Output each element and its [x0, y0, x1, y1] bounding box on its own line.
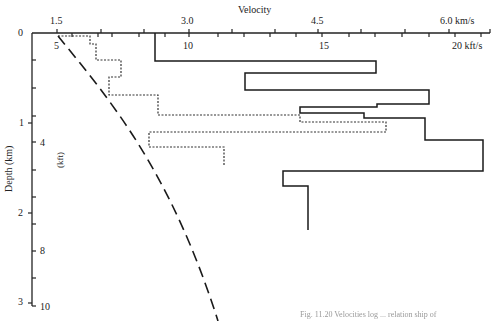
- y-tick-label-1: 1: [19, 117, 24, 128]
- y-tick-label-0: 0: [18, 27, 23, 38]
- x-tick-label-6.0: 6.0 km/s: [440, 15, 474, 26]
- velocity-depth-chart: [0, 0, 497, 321]
- y2-tick-label-4: 4: [40, 137, 45, 148]
- y2-axis-title: (kft): [55, 152, 65, 168]
- x2-tick-label-5: 5: [54, 40, 59, 51]
- y2-tick-label-10: 10: [40, 301, 50, 312]
- y-tick-label-2: 2: [18, 207, 23, 218]
- figure-caption: Fig. 11.20 Velocities log ... relation s…: [300, 310, 436, 319]
- y-axis-title: Depth (km): [3, 146, 14, 192]
- x-tick-label-1.5: 1.5: [50, 15, 63, 26]
- axes: [32, 33, 490, 306]
- x-tick-label-4.5: 4.5: [311, 15, 324, 26]
- x2-tick-label-15: 15: [319, 40, 329, 51]
- y-tick-label-3: 3: [18, 296, 23, 307]
- y2-tick-label-8: 8: [40, 245, 45, 256]
- x2-tick-label-20: 20 kft/s: [452, 40, 482, 51]
- dotted-velocity-series: [58, 36, 386, 165]
- x-tick-label-3.0: 3.0: [181, 15, 194, 26]
- x-axis-title: Velocity: [238, 4, 271, 15]
- x2-tick-label-10: 10: [183, 40, 193, 51]
- dashed-trend-series: [58, 36, 218, 321]
